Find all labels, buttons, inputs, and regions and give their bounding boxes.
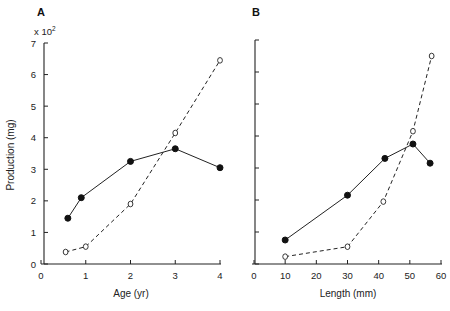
x-tick-label: 60 [436, 270, 447, 281]
series-open-line [66, 60, 220, 252]
x-tick-label: 1 [83, 270, 88, 281]
panel-b-label: B [252, 6, 260, 18]
filled-circle-marker [128, 158, 134, 164]
x-tick-label: 50 [405, 270, 416, 281]
filled-circle-marker [382, 155, 388, 161]
panel-b-plot: 0102030405060 [251, 40, 446, 281]
x-tick-label: 20 [311, 270, 322, 281]
y-tick-label: 1 [31, 227, 36, 238]
x-tick-label: 10 [280, 270, 291, 281]
open-circle-marker [173, 130, 178, 136]
filled-circle-marker [410, 141, 416, 147]
x-tick-label: 2 [128, 270, 133, 281]
filled-circle-marker [172, 146, 178, 152]
y-tick-label: 7 [31, 38, 36, 49]
filled-circle-marker [427, 160, 433, 166]
figure: A x 102 Production (mg) Age (yr) B Lengt… [0, 0, 450, 311]
panel-a-label: A [37, 6, 45, 18]
open-circle-marker [429, 53, 434, 59]
y-tick-label: 4 [31, 132, 36, 143]
panel-a-plot: 0123456701234 [31, 38, 223, 282]
open-circle-marker [381, 199, 386, 205]
y-axis-title: Production (mg) [5, 119, 16, 190]
open-circle-marker [218, 58, 223, 64]
filled-circle-marker [282, 237, 288, 243]
x-tick-label: 3 [173, 270, 178, 281]
x-tick-label: 40 [373, 270, 384, 281]
open-circle-marker [283, 254, 288, 260]
x-tick-label: 0 [251, 270, 256, 281]
x-axis-title-b: Length (mm) [320, 288, 377, 299]
y-multiplier: x 102 [34, 25, 56, 37]
series-filled-line [285, 144, 430, 240]
x-tick-label: 0 [38, 270, 43, 281]
filled-circle-marker [217, 165, 223, 171]
x-tick-label: 4 [217, 270, 222, 281]
open-circle-marker [411, 128, 416, 134]
series-open-line [285, 56, 431, 257]
filled-circle-marker [65, 215, 71, 221]
open-circle-marker [83, 244, 88, 250]
open-circle-marker [63, 249, 68, 255]
y-tick-label: 5 [31, 101, 36, 112]
filled-circle-marker [345, 192, 351, 198]
y-tick-label: 6 [31, 69, 36, 80]
y-tick-label: 0 [31, 259, 36, 270]
y-tick-label: 2 [31, 195, 36, 206]
y-tick-label: 3 [31, 164, 36, 175]
x-tick-label: 30 [342, 270, 353, 281]
x-axis-title-a: Age (yr) [113, 288, 149, 299]
open-circle-marker [345, 244, 350, 250]
open-circle-marker [128, 201, 133, 207]
filled-circle-marker [78, 195, 84, 201]
